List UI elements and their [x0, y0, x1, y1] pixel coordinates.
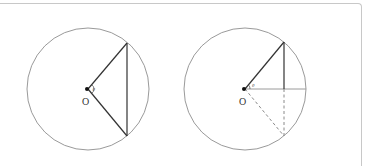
left-center-dot [85, 87, 89, 91]
left-upper-radius [88, 43, 127, 89]
right-angle-arc [249, 85, 251, 89]
right-dashed-radius [245, 89, 284, 136]
right-radius [245, 42, 284, 89]
right-panel: θ O [184, 28, 306, 150]
left-lower-radius [88, 89, 127, 136]
right-angle-label: θ [252, 83, 255, 88]
right-center-dot [242, 87, 246, 91]
right-center-label: O [239, 96, 246, 107]
left-angle-label: θ [93, 87, 96, 92]
left-center-label: O [82, 96, 89, 107]
figure-canvas: θ O θ O [0, 0, 366, 166]
left-panel: θ O [27, 28, 149, 150]
